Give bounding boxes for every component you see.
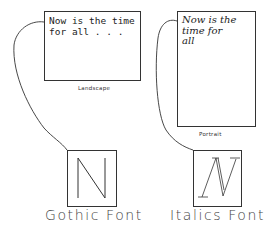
- connector-landscape-to-gothic: [14, 22, 67, 150]
- italics-font-caption: Italics Font: [170, 207, 265, 223]
- portrait-text-line-3: all: [182, 36, 236, 47]
- portrait-caption: Portrait: [199, 131, 222, 137]
- landscape-caption: Landscape: [78, 85, 110, 91]
- landscape-text-line-2: for all . . .: [49, 26, 135, 37]
- gothic-font-caption: Gothic Font: [45, 207, 143, 223]
- landscape-text-line-1: Now is the time: [49, 15, 135, 26]
- italic-n-glyph: [198, 158, 240, 197]
- portrait-text-line-1: Now is the: [182, 15, 236, 26]
- landscape-sample-text: Now is the time for all . . .: [49, 15, 135, 37]
- gothic-n-glyph: [78, 158, 105, 198]
- portrait-sample-text: Now is the time for all: [182, 15, 236, 47]
- italic-glyph-box: [194, 151, 242, 207]
